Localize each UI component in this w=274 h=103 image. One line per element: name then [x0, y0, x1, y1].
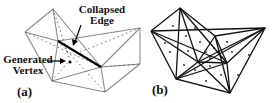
mesh-figure [0, 0, 274, 103]
collapsed-edge [58, 41, 101, 67]
panel-b-label: (b) [152, 82, 168, 98]
collapsed-label-line2: Edge [76, 15, 128, 26]
generated-label-line2: Vertex [2, 65, 54, 76]
generated-vertex-dot [69, 61, 72, 64]
panel-a-label: (a) [17, 84, 32, 100]
generated-vertex-label: Generated Vertex [2, 54, 54, 76]
collapsed-edge-label: Collapsed Edge [76, 4, 128, 26]
panel-b-mesh [151, 8, 265, 93]
